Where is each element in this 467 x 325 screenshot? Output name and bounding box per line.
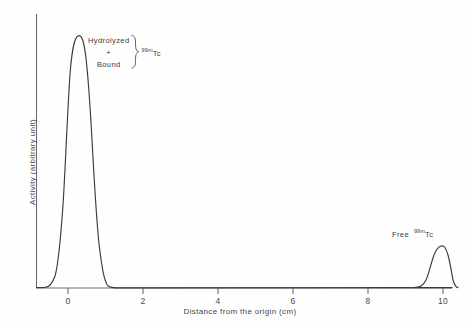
x-tick-label-6: 6 — [290, 296, 295, 306]
radiochromatogram-figure: 0 2 4 6 8 10 Distance from the origin (c… — [0, 0, 467, 325]
x-tick-marks — [68, 288, 443, 294]
free-tc-annotation: Free 99mTc — [392, 228, 433, 239]
brace-spacer — [131, 36, 140, 70]
chart-canvas — [0, 0, 467, 325]
isotope-mass-number: 99m — [141, 47, 152, 53]
x-tick-label-2: 2 — [140, 296, 145, 306]
x-tick-label-8: 8 — [365, 296, 370, 306]
x-tick-label-0: 0 — [65, 296, 70, 306]
hydrolyzed-bound-annotation: Hydrolyzed + Bound 99mTc — [88, 35, 161, 70]
isotope-mass-number-free: 99m — [414, 228, 425, 234]
annotation-line-bound: Bound — [97, 59, 121, 71]
hydrolyzed-bound-peak-curve — [37, 36, 453, 288]
isotope-label-tc99m-bound: 99mTc — [141, 47, 160, 58]
isotope-symbol: Tc — [153, 49, 161, 58]
annotation-line-plus: + — [106, 47, 111, 59]
annotation-text-lines: Hydrolyzed + Bound — [88, 35, 129, 70]
annotation-line-hydrolyzed: Hydrolyzed — [88, 35, 129, 47]
isotope-symbol-free: Tc — [425, 230, 433, 239]
x-tick-label-10: 10 — [438, 296, 448, 306]
x-axis-title: Distance from the origin (cm) — [184, 307, 297, 316]
y-axis-title: Activity (arbitrary unit) — [28, 119, 37, 205]
free-tc-peak-curve — [414, 246, 458, 288]
x-tick-label-4: 4 — [215, 296, 220, 306]
isotope-label-tc99m-free: 99mTc — [411, 230, 433, 239]
free-label: Free — [392, 230, 409, 239]
